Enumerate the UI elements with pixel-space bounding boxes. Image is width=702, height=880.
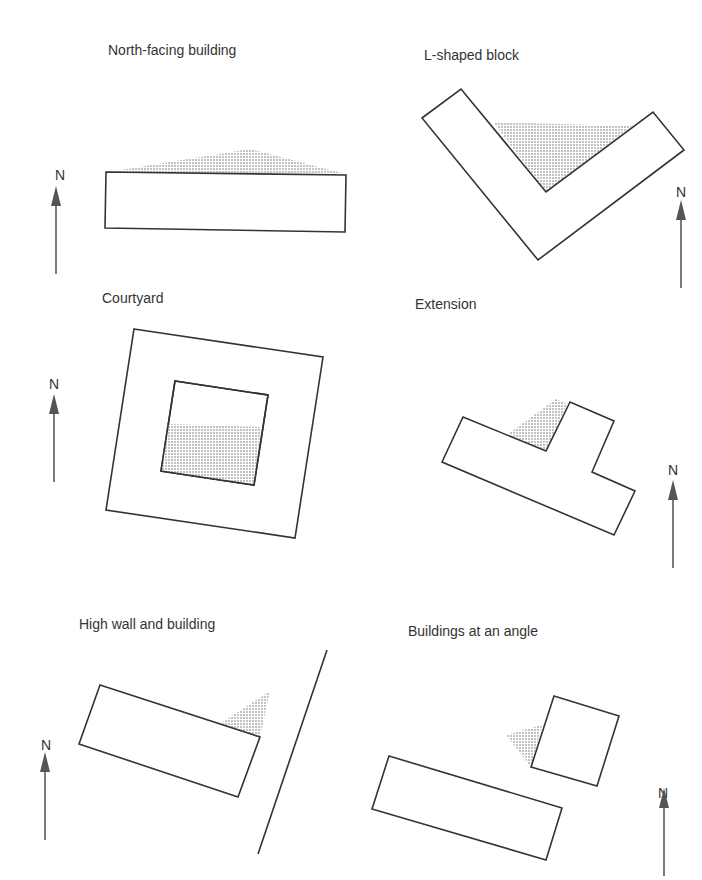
north-arrow-icon (49, 394, 59, 482)
building (79, 685, 260, 797)
north-arrow-icon (51, 186, 61, 274)
north-label: N (676, 184, 686, 200)
panel-title: North-facing building (108, 42, 236, 58)
north-arrow-icon (676, 200, 686, 288)
north-arrow-icon (668, 480, 678, 568)
north-label: N (55, 167, 65, 183)
north-arrow-icon (659, 788, 669, 876)
panel-title: Extension (415, 296, 476, 312)
building-long (372, 756, 562, 860)
panel-l-shaped: L-shaped block N (422, 47, 686, 288)
panel-courtyard: Courtyard N (49, 290, 323, 538)
panel-title: L-shaped block (424, 47, 520, 63)
panel-title: Buildings at an angle (408, 623, 538, 639)
north-label: N (668, 462, 678, 478)
north-arrow-icon (40, 752, 50, 840)
panel-extension: Extension N (415, 296, 678, 568)
north-label: N (41, 737, 51, 753)
building-square (531, 696, 619, 786)
panel-north-facing: North-facing building N (51, 42, 346, 274)
shadow-area (108, 149, 346, 174)
panel-angle: Buildings at an angle N (372, 623, 669, 876)
panel-high-wall: High wall and building N (40, 616, 327, 854)
high-wall (258, 650, 327, 854)
north-label: N (49, 376, 59, 392)
panel-title: High wall and building (79, 616, 215, 632)
building (105, 172, 346, 232)
shadow-diagram: North-facing building N L-shaped block N… (0, 0, 702, 880)
panel-title: Courtyard (102, 290, 163, 306)
